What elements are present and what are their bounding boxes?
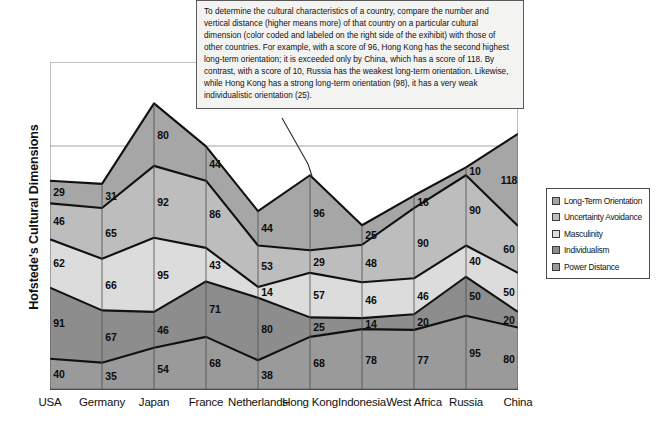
plot-area bbox=[50, 62, 518, 390]
legend-swatch-icon bbox=[552, 246, 560, 254]
legend-item[interactable]: Masculinity bbox=[552, 228, 645, 239]
annotation-callout: To determine the cultural characteristic… bbox=[196, 0, 524, 109]
x-axis-label-west-africa: West Africa bbox=[386, 396, 442, 408]
legend-label: Uncertainty Avoidance bbox=[564, 212, 642, 222]
legend-item[interactable]: Uncertainty Avoidance bbox=[552, 212, 645, 223]
y-axis-title: Hofstede's Cultural Dimensions bbox=[27, 87, 41, 347]
legend-swatch-icon bbox=[552, 213, 560, 221]
x-axis-label-usa: USA bbox=[38, 396, 61, 408]
legend-swatch-icon bbox=[552, 230, 560, 238]
legend: Long-Term OrientationUncertainty Avoidan… bbox=[546, 188, 650, 279]
legend-item[interactable]: Power Distance bbox=[552, 261, 645, 272]
stacked-area-svg bbox=[50, 62, 518, 390]
x-axis-label-japan: Japan bbox=[139, 396, 169, 408]
chart-root: Hofstede's Cultural Dimensions 409162462… bbox=[0, 0, 656, 422]
x-axis-label-indonesia: Indonesia bbox=[338, 396, 386, 408]
x-axis-labels: USAGermanyJapanFranceNetherlandsHong Kon… bbox=[0, 396, 560, 418]
annotation-text: To determine the cultural characteristic… bbox=[204, 7, 509, 100]
legend-label: Long-Term Orientation bbox=[564, 196, 642, 206]
x-axis-label-russia: Russia bbox=[449, 396, 483, 408]
legend-item[interactable]: Individualism bbox=[552, 245, 645, 256]
x-axis-label-france: France bbox=[189, 396, 224, 408]
legend-label: Individualism bbox=[564, 245, 609, 255]
legend-swatch-icon bbox=[552, 263, 560, 271]
x-axis-label-hong-kong: Hong Kong bbox=[282, 396, 338, 408]
legend-label: Power Distance bbox=[564, 262, 619, 272]
legend-item[interactable]: Long-Term Orientation bbox=[552, 195, 645, 206]
legend-label: Masculinity bbox=[564, 229, 603, 239]
legend-swatch-icon bbox=[552, 197, 560, 205]
x-axis-label-china: China bbox=[503, 396, 532, 408]
x-axis-label-germany: Germany bbox=[79, 396, 125, 408]
x-axis-label-netherlands: Netherlands bbox=[228, 396, 288, 408]
